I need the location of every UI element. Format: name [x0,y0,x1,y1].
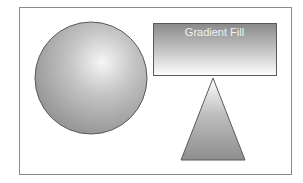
rectangle-label: Gradient Fill [153,24,276,40]
gradient-circle [35,22,147,134]
gradient-triangle [181,78,245,160]
diagram-canvas: Gradient Fill [0,0,303,183]
